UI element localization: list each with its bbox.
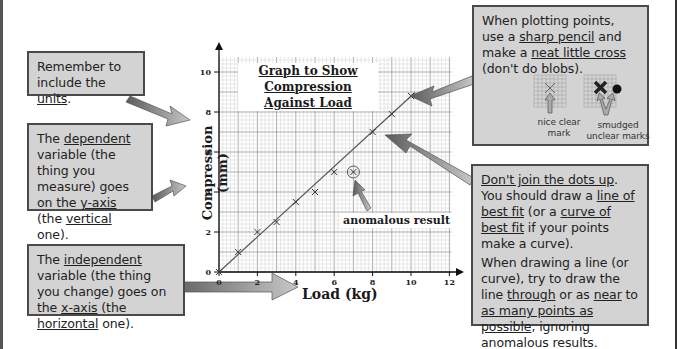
x-tick-label: 8 xyxy=(367,277,379,287)
x-tick-label: 4 xyxy=(290,277,302,287)
callout-bestfit: Don't join the dots up. You should draw … xyxy=(471,164,649,326)
y-tick-label: 6 xyxy=(197,147,211,157)
y-tick-label: 4 xyxy=(197,187,211,197)
anomalous-label: anomalous result xyxy=(340,213,453,228)
arrow-units xyxy=(126,96,190,126)
arrow-bestfit xyxy=(385,134,474,185)
bad-mark-caption: smudged unclear marks xyxy=(586,120,650,142)
bad-mark-arrow xyxy=(597,93,615,115)
x-tick-label: 0 xyxy=(213,277,225,287)
x-tick-label: 10 xyxy=(405,277,417,287)
good-mark-caption: nice clear mark xyxy=(534,117,584,139)
callout-plotting: When plotting points, use a sharp pencil… xyxy=(472,5,649,146)
x-tick-label: 2 xyxy=(251,277,263,287)
x-tick-label: 6 xyxy=(328,277,340,287)
callout-units: Remember to include the units. xyxy=(27,51,145,96)
x-tick-label: 12 xyxy=(443,277,455,287)
arrow-anomalous xyxy=(353,180,371,211)
arrow-plotting xyxy=(410,76,474,106)
chart-title: Graph to Show Compression Against Load xyxy=(238,63,378,111)
y-tick-label: 8 xyxy=(197,107,211,117)
y-tick-label: 10 xyxy=(197,67,211,77)
callout-dependent: The dependent variable (the thing you me… xyxy=(27,123,153,211)
y-tick-label: 2 xyxy=(197,227,211,237)
y-axis-label: Compression (mm) xyxy=(200,113,230,233)
x-axis-label: Load (kg) xyxy=(302,286,378,302)
callout-independent: The independent variable (the thing you … xyxy=(27,244,185,316)
y-tick-label: 0 xyxy=(197,267,211,277)
arrow-dependent xyxy=(152,180,186,202)
